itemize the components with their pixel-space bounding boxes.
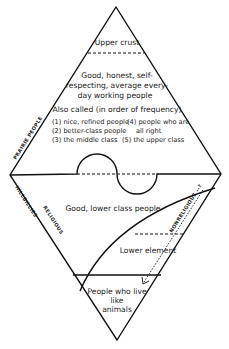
working-people-line-1: Good, honest, self-: [81, 71, 153, 80]
also-called-item-3: (3) the middle class: [52, 136, 118, 144]
also-called-item-4-cont: all right: [136, 127, 162, 135]
also-called-item-5: (5) the upper class: [122, 136, 185, 144]
nonreligious-label: NONRELIGIOUS --?: [168, 183, 203, 234]
also-called-item-4: (4) people who are: [127, 118, 189, 126]
prairie-people-label: PRAIRIE PEOPLE: [12, 115, 44, 161]
middle-s-curve: [10, 154, 221, 194]
upper-crust-label: Upper crust: [95, 38, 139, 47]
arrow-head-icon: [142, 277, 149, 284]
animals-line-1: People who live: [87, 287, 146, 296]
also-called-heading: Also called (in order of frequency): [52, 105, 181, 114]
also-called-item-2: (2) better-class people: [52, 127, 126, 135]
animals-line-2: like: [110, 296, 123, 305]
good-lower-class-label: Good, lower class people: [65, 204, 160, 213]
lower-element-label: Lower element: [120, 246, 176, 255]
hillbillies-label: HILLBILLIES: [14, 184, 39, 218]
class-diagram: Upper crust Good, honest, self- respecti…: [0, 0, 229, 349]
working-people-line-2: respecting, average every-: [66, 81, 169, 90]
animals-line-3: animals: [102, 305, 132, 314]
working-people-line-3: day working people: [78, 91, 153, 100]
also-called-item-1: (1) nice, refined people: [52, 118, 129, 126]
